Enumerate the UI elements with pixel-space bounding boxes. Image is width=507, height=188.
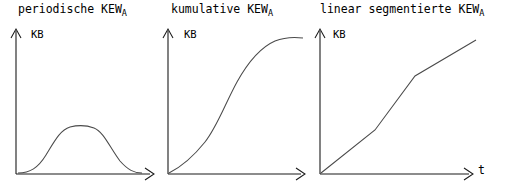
plot-kumulative <box>153 0 318 188</box>
panel-periodische-kew: periodische KEWA KB <box>0 0 165 188</box>
plot-periodische <box>0 0 165 188</box>
panel-linear-segmentierte-kew: linear segmentierte KEWA KB t <box>306 0 507 188</box>
curve-segmentierte <box>321 40 476 173</box>
kew-curve-figure: periodische KEWA KB kumulative KEWA KB l… <box>0 0 507 188</box>
plot-segmentierte <box>306 0 507 188</box>
curve-periodische <box>18 126 142 173</box>
panel-kumulative-kew: kumulative KEWA KB <box>153 0 318 188</box>
curve-kumulative <box>169 37 303 173</box>
